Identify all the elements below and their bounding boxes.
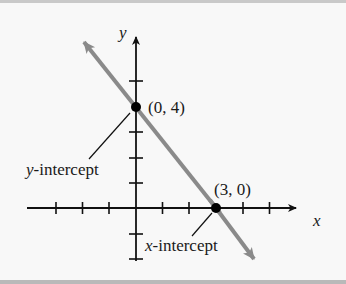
x-intercept-leader [192, 213, 212, 236]
x-intercept-var: x [145, 236, 153, 255]
point-label-3-0: (3, 0) [214, 181, 251, 198]
y-intercept-leader [89, 113, 130, 159]
y-intercept-point [131, 102, 141, 112]
x-intercept-label: x-intercept [145, 237, 218, 254]
y-axis-label: y [119, 24, 127, 41]
point-label-0-4: (0, 4) [148, 99, 185, 116]
x-intercept-point [211, 203, 221, 213]
y-intercept-text: -intercept [34, 160, 99, 179]
y-intercept-var: y [26, 160, 34, 179]
x-intercept-text: -intercept [153, 236, 218, 255]
y-intercept-label: y-intercept [26, 161, 99, 178]
graphed-line [84, 42, 220, 213]
x-axis-label: x [313, 212, 321, 229]
diagram-frame: y x (0, 4) (3, 0) y-intercept x-intercep… [0, 0, 346, 284]
